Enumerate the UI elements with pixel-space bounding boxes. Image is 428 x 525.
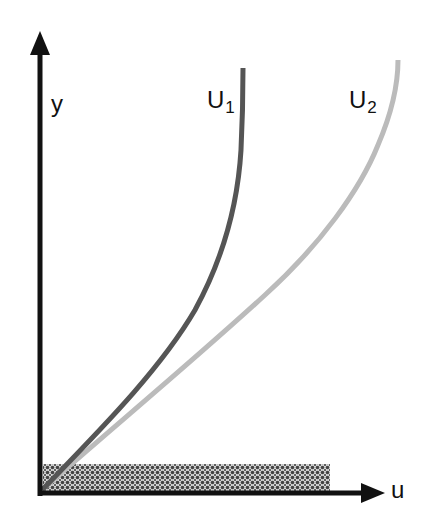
curve-u1-label: U1	[207, 88, 235, 112]
x-axis-label: u	[391, 478, 404, 502]
velocity-profile-diagram	[0, 0, 428, 525]
curve-u1-label-main: U	[207, 86, 224, 113]
curve-u2-label-subscript: 2	[367, 98, 376, 117]
curve-u1-label-subscript: 1	[225, 98, 234, 117]
y-axis-arrowhead	[30, 31, 50, 55]
curve-u1	[42, 68, 243, 490]
x-axis-arrowhead	[361, 483, 385, 503]
curve-u2-label-main: U	[349, 86, 366, 113]
curve-u2	[42, 60, 398, 490]
curve-u2-label: U2	[349, 88, 377, 112]
hatched-band	[43, 464, 330, 491]
y-axis-label: y	[51, 92, 63, 116]
